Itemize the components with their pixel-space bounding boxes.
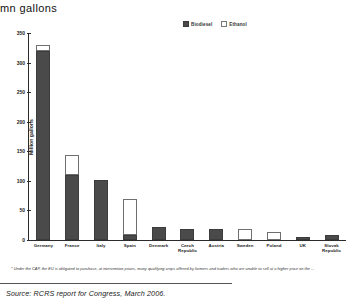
stacked-bar[interactable] bbox=[267, 232, 281, 240]
bar-group[interactable] bbox=[260, 33, 288, 240]
bar-group[interactable] bbox=[202, 33, 230, 240]
y-axis-tick-label: 250 bbox=[17, 89, 25, 95]
bar-segment-biodiesel[interactable] bbox=[94, 180, 108, 240]
legend-label-ethanol: Ethanol bbox=[229, 22, 247, 27]
x-axis-category-label: Germany bbox=[29, 243, 57, 254]
bar-segment-ethanol[interactable] bbox=[65, 155, 79, 175]
x-axis-category-label: Italy bbox=[87, 243, 115, 254]
legend-label-biodiesel: Biodiesel bbox=[191, 22, 212, 27]
x-axis-category-labels: GermanyFranceItalySpainDenmarkCzech Repu… bbox=[29, 243, 346, 254]
stacked-bar[interactable] bbox=[209, 229, 223, 240]
y-axis-tick-label: 300 bbox=[17, 60, 25, 66]
bar-segment-biodiesel[interactable] bbox=[180, 229, 194, 240]
bar-segment-biodiesel[interactable] bbox=[36, 51, 50, 240]
source-citation: Source: RCRS report for Congress, March … bbox=[6, 289, 166, 298]
chart-legend: Biodiesel Ethanol bbox=[183, 21, 247, 27]
bar-segment-ethanol[interactable] bbox=[238, 229, 252, 240]
bar-group[interactable] bbox=[289, 33, 317, 240]
x-axis-category-label: Slovak Republic bbox=[318, 243, 346, 254]
x-axis-category-label: Sweden bbox=[231, 243, 259, 254]
stacked-bar[interactable] bbox=[123, 199, 137, 240]
stacked-bar[interactable] bbox=[325, 235, 339, 240]
bar-group[interactable] bbox=[116, 33, 144, 240]
x-axis-line bbox=[28, 240, 346, 241]
stacked-bar[interactable] bbox=[180, 229, 194, 240]
legend-item-ethanol[interactable]: Ethanol bbox=[221, 21, 247, 27]
x-axis-category-label: UK bbox=[289, 243, 317, 254]
y-axis-tick-label: 200 bbox=[17, 119, 25, 125]
bar-group[interactable] bbox=[29, 33, 57, 240]
x-axis-category-label: Austria bbox=[202, 243, 230, 254]
bar-segment-ethanol[interactable] bbox=[267, 232, 281, 240]
bar-segment-biodiesel[interactable] bbox=[325, 235, 339, 240]
bar-group[interactable] bbox=[318, 33, 346, 240]
filled-dark-square-icon bbox=[183, 21, 189, 27]
bar-segment-biodiesel[interactable] bbox=[152, 227, 166, 240]
y-axis-tick-label: 150 bbox=[17, 148, 25, 154]
y-axis-tick-mark bbox=[27, 240, 31, 241]
y-axis-tick-label: 350 bbox=[17, 30, 25, 36]
stacked-bar[interactable] bbox=[238, 229, 252, 240]
bar-segment-biodiesel[interactable] bbox=[296, 237, 310, 240]
bar-segment-biodiesel[interactable] bbox=[65, 175, 79, 240]
x-axis-category-label: Denmark bbox=[145, 243, 173, 254]
bar-group[interactable] bbox=[173, 33, 201, 240]
legend-item-biodiesel[interactable]: Biodiesel bbox=[183, 21, 212, 27]
hollow-white-square-icon bbox=[221, 21, 227, 27]
bar-series-container bbox=[29, 33, 346, 240]
stacked-bar[interactable] bbox=[296, 237, 310, 240]
y-axis-tick-label: 100 bbox=[17, 178, 25, 184]
stacked-bar[interactable] bbox=[94, 180, 108, 240]
y-axis-tick-label: 0 bbox=[22, 237, 25, 243]
bar-group[interactable] bbox=[87, 33, 115, 240]
x-axis-category-label: Spain bbox=[116, 243, 144, 254]
bar-segment-biodiesel[interactable] bbox=[123, 235, 137, 240]
stacked-bar[interactable] bbox=[65, 155, 79, 240]
chart-title: mn gallons bbox=[0, 2, 57, 14]
plot-area: 050100150200250300350 Million gallons bbox=[28, 33, 346, 241]
chart-footnote: * Under the CAP, the EU is obligated to … bbox=[11, 266, 351, 271]
bar-segment-ethanol[interactable] bbox=[123, 199, 137, 236]
stacked-bar[interactable] bbox=[152, 227, 166, 240]
x-axis-category-label: France bbox=[58, 243, 86, 254]
x-axis-category-label: Czech Republic bbox=[173, 243, 201, 254]
stacked-bar[interactable] bbox=[36, 45, 50, 240]
y-axis-tick-label: 50 bbox=[19, 207, 25, 213]
bar-group[interactable] bbox=[58, 33, 86, 240]
source-divider bbox=[0, 283, 232, 284]
bar-segment-biodiesel[interactable] bbox=[209, 229, 223, 240]
x-axis-category-label: Poland bbox=[260, 243, 288, 254]
bar-group[interactable] bbox=[231, 33, 259, 240]
bar-group[interactable] bbox=[145, 33, 173, 240]
